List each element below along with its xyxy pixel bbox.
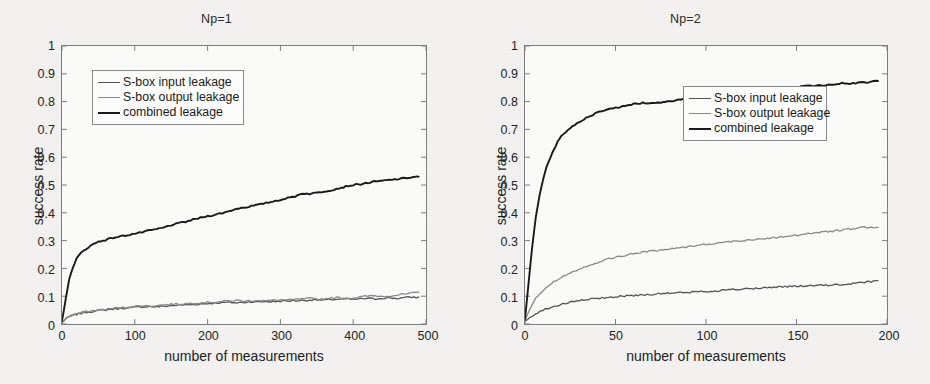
panel-title-np1: Np=1 [0,12,465,26]
y-tick-label: 0.2 [38,263,55,277]
y-axis-label-np2: success rate [493,126,509,246]
y-tick-label: 0 [48,319,55,333]
legend-item-label: S-box output leakage [123,90,239,105]
x-tick-label: 0 [59,329,66,343]
legend-line-swatch-icon [98,97,120,98]
legend-item-label: S-box input leakage [123,75,232,90]
legend-item-label: combined leakage [123,105,223,120]
series-line [62,292,419,322]
legend-item[interactable]: combined leakage [98,105,237,120]
legend-line-swatch-icon [689,128,711,130]
legend-np2[interactable]: S-box input leakageS-box output leakagec… [683,86,827,141]
y-tick-label: 1 [48,39,55,53]
legend-line-swatch-icon [98,112,120,114]
y-tick-label: 0 [511,319,518,333]
legend-line-swatch-icon [689,113,711,114]
x-tick-label: 400 [344,329,365,343]
legend-line-swatch-icon [689,98,711,99]
x-tick-label: 500 [418,329,439,343]
chart-panel-np1: Np=1 00.10.20.30.40.50.60.70.80.91 01002… [0,0,465,384]
y-tick-label: 1 [511,39,518,53]
y-tick-label: 0.1 [38,291,55,305]
x-tick-label: 0 [522,329,529,343]
y-axis-label-np1: success rate [30,126,46,246]
series-line [525,227,878,321]
y-tick-label: 0.9 [501,67,518,81]
y-tick-label: 0.2 [501,263,518,277]
x-tick-label: 300 [271,329,292,343]
y-tick-label: 0.8 [38,95,55,109]
legend-item-label: S-box input leakage [714,91,823,106]
legend-item[interactable]: combined leakage [689,121,820,136]
x-tick-label: 150 [788,329,809,343]
y-tick-label: 0.8 [501,95,518,109]
y-tick-label: 0.1 [501,291,518,305]
x-tick-label: 100 [697,329,718,343]
legend-item[interactable]: S-box output leakage [98,90,237,105]
x-tick-label: 200 [198,329,219,343]
legend-item[interactable]: S-box input leakage [98,75,237,90]
legend-np1[interactable]: S-box input leakageS-box output leakagec… [92,70,244,125]
x-tick-label: 100 [125,329,146,343]
chart-panel-np2: Np=2 00.10.20.30.40.50.60.70.80.91 05010… [465,0,930,384]
x-axis-label-np2: number of measurements [626,348,786,364]
y-tick-label: 0.9 [38,67,55,81]
legend-item[interactable]: S-box output leakage [689,106,820,121]
panel-title-np2: Np=2 [441,12,930,26]
series-line [525,281,878,321]
legend-item[interactable]: S-box input leakage [689,91,820,106]
legend-item-label: combined leakage [714,121,814,136]
legend-item-label: S-box output leakage [714,106,830,121]
x-tick-label: 50 [609,329,623,343]
figure-canvas: Np=1 00.10.20.30.40.50.60.70.80.91 01002… [0,0,930,384]
x-axis-label-np1: number of measurements [164,348,324,364]
x-tick-label: 200 [879,329,900,343]
legend-line-swatch-icon [98,82,120,83]
